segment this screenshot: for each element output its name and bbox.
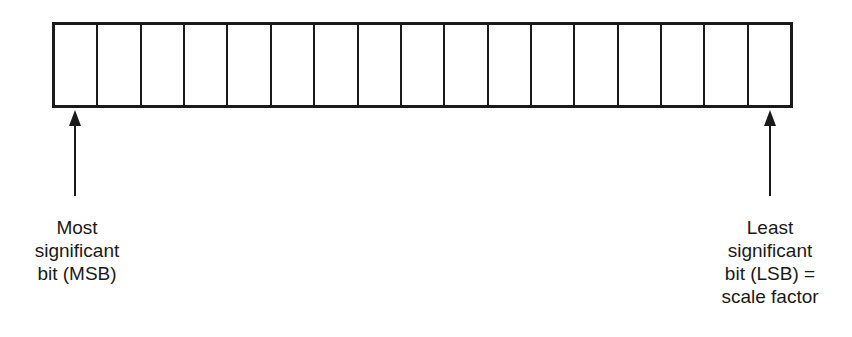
bit-cell xyxy=(142,25,185,105)
lsb-label-line: Least xyxy=(710,216,830,239)
bit-cell xyxy=(749,25,790,105)
lsb-label-line: scale factor xyxy=(710,285,830,308)
bit-cell xyxy=(402,25,445,105)
bit-cell xyxy=(98,25,141,105)
bit-cell xyxy=(532,25,575,105)
bit-cell xyxy=(315,25,358,105)
bit-cell xyxy=(705,25,748,105)
lsb-label-line: significant xyxy=(710,239,830,262)
bit-cell xyxy=(228,25,271,105)
bit-register xyxy=(52,22,793,108)
bit-cell xyxy=(489,25,532,105)
lsb-label: Least significant bit (LSB) = scale fact… xyxy=(710,216,830,308)
bit-cell xyxy=(272,25,315,105)
bit-cell xyxy=(55,25,98,105)
msb-label: Most significant bit (MSB) xyxy=(22,216,132,285)
bit-cell xyxy=(359,25,402,105)
msb-label-line: Most xyxy=(22,216,132,239)
bit-cell xyxy=(575,25,618,105)
msb-arrow-icon xyxy=(69,110,81,196)
lsb-arrow-icon xyxy=(764,110,776,196)
msb-label-line: bit (MSB) xyxy=(22,262,132,285)
bit-cell xyxy=(662,25,705,105)
bit-cell xyxy=(445,25,488,105)
msb-label-line: significant xyxy=(22,239,132,262)
lsb-label-line: bit (LSB) = xyxy=(710,262,830,285)
bit-cell xyxy=(185,25,228,105)
bit-cell xyxy=(619,25,662,105)
